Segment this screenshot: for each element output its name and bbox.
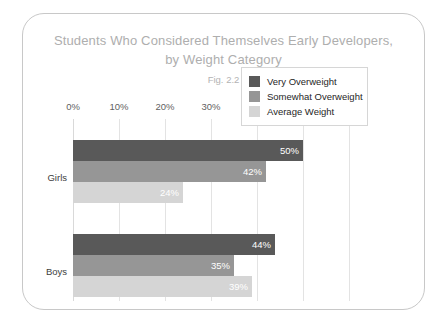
legend-swatch-icon-somewhat-overweight	[249, 91, 260, 102]
bar-value-girls-somewhat-overweight: 42%	[243, 161, 262, 182]
plot-area: 0% 10% 20% 30% 40% 50% 60% Girls Boys 50…	[73, 119, 349, 301]
legend-swatch-icon-average-weight	[249, 106, 260, 117]
bar-value-girls-very-overweight: 50%	[280, 140, 299, 161]
xtick-label-10: 10%	[109, 101, 128, 112]
gridline-60	[349, 119, 350, 301]
legend-label-average-weight: Average Weight	[267, 106, 334, 117]
legend-label-very-overweight: Very Overweight	[267, 76, 337, 87]
xtick-label-30: 30%	[201, 101, 220, 112]
legend-item-average-weight[interactable]: Average Weight	[249, 104, 360, 119]
gridline-50	[303, 119, 304, 301]
bar-girls-somewhat-overweight[interactable]: 42%	[73, 161, 266, 182]
bar-value-girls-average-weight: 24%	[160, 182, 179, 203]
category-label-boys: Boys	[25, 266, 67, 277]
bar-boys-somewhat-overweight[interactable]: 35%	[73, 255, 234, 276]
chart-card: Students Who Considered Themselves Early…	[22, 13, 425, 310]
category-label-girls: Girls	[25, 172, 67, 183]
bar-boys-average-weight[interactable]: 39%	[73, 276, 252, 297]
legend-item-very-overweight[interactable]: Very Overweight	[249, 74, 360, 89]
xtick-label-20: 20%	[155, 101, 174, 112]
chart-title-line-1: Students Who Considered Themselves Early…	[23, 31, 424, 50]
bar-girls-average-weight[interactable]: 24%	[73, 182, 183, 203]
bar-value-boys-somewhat-overweight: 35%	[211, 255, 230, 276]
legend-label-somewhat-overweight: Somewhat Overweight	[267, 91, 363, 102]
bar-value-boys-very-overweight: 44%	[252, 234, 271, 255]
xtick-label-0: 0%	[66, 101, 80, 112]
bar-girls-very-overweight[interactable]: 50%	[73, 140, 303, 161]
bar-value-boys-average-weight: 39%	[229, 276, 248, 297]
bar-boys-very-overweight[interactable]: 44%	[73, 234, 275, 255]
legend-item-somewhat-overweight[interactable]: Somewhat Overweight	[249, 89, 360, 104]
chart-legend: Very Overweight Somewhat Overweight Aver…	[241, 67, 368, 126]
legend-swatch-icon-very-overweight	[249, 76, 260, 87]
